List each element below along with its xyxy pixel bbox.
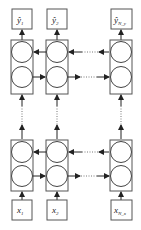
rnn-cell [110, 40, 132, 94]
output-node-n: ŷN_y [111, 9, 132, 29]
bidirectional-rnn-diagram: ŷ1 ŷ2 ŷN_y [0, 0, 141, 230]
rnn-cell [46, 140, 68, 191]
backward-state-node [12, 42, 33, 63]
rnn-cell [11, 140, 33, 191]
backward-state-node [111, 42, 132, 63]
backward-state-node [47, 142, 68, 163]
backward-state-node [47, 42, 68, 63]
input-node-2: x2 [47, 200, 67, 220]
backward-state-node [111, 142, 132, 163]
output-node-1: ŷ1 [12, 9, 32, 29]
top-layer [11, 40, 132, 94]
forward-state-node [12, 67, 33, 88]
rnn-cell [11, 40, 33, 94]
forward-state-node [47, 166, 68, 187]
forward-state-node [111, 67, 132, 88]
rnn-cell [46, 40, 68, 94]
backward-state-node [12, 142, 33, 163]
input-node-1: x1 [12, 200, 32, 220]
rnn-cell [110, 140, 132, 191]
forward-state-node [111, 166, 132, 187]
bottom-layer [11, 140, 132, 191]
forward-state-node [47, 67, 68, 88]
output-node-2: ŷ2 [47, 9, 67, 29]
input-node-n: xN_x [111, 200, 132, 220]
layer-ellipsis [22, 95, 121, 139]
forward-state-node [12, 166, 33, 187]
